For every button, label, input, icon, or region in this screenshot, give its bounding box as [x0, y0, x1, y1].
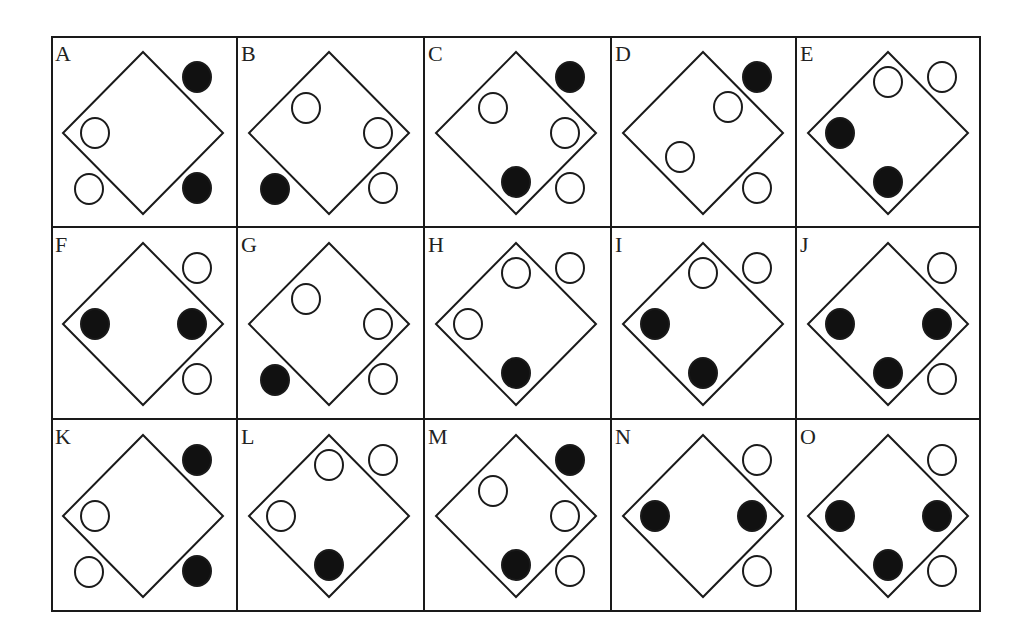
hollow-circle-icon	[75, 174, 103, 204]
hollow-circle-icon	[364, 309, 392, 339]
cell-label: I	[615, 232, 622, 257]
cell-label: J	[800, 232, 809, 257]
filled-circle-icon	[81, 309, 109, 339]
filled-circle-icon	[826, 309, 854, 339]
filled-circle-icon	[874, 167, 902, 197]
hollow-circle-icon	[183, 364, 211, 394]
option-cell-a[interactable]: A	[51, 36, 237, 227]
cell-label: M	[428, 424, 448, 449]
option-cell-f[interactable]: F	[51, 227, 237, 419]
cell-label: G	[241, 232, 257, 257]
cell-border	[611, 419, 796, 612]
hollow-circle-icon	[928, 62, 956, 92]
filled-circle-icon	[502, 358, 530, 388]
cell-label: C	[428, 41, 443, 66]
cell-label: O	[800, 424, 816, 449]
puzzle-svg: ABCDEFGHIJKLMNO	[51, 36, 981, 612]
hollow-circle-icon	[928, 364, 956, 394]
cell-label: N	[615, 424, 631, 449]
filled-circle-icon	[923, 501, 951, 531]
option-cell-j[interactable]: J	[796, 227, 981, 419]
cell-label: L	[241, 424, 254, 449]
option-cell-h[interactable]: H	[424, 227, 611, 419]
cell-label: F	[55, 232, 67, 257]
cell-border	[424, 227, 611, 419]
cell-border	[796, 227, 981, 419]
option-cell-g[interactable]: G	[237, 227, 424, 419]
filled-circle-icon	[641, 501, 669, 531]
option-cell-i[interactable]: I	[611, 227, 796, 419]
cell-border	[51, 227, 237, 419]
option-cell-d[interactable]: D	[611, 36, 796, 227]
cell-label: B	[241, 41, 256, 66]
option-cell-n[interactable]: N	[611, 419, 796, 612]
filled-circle-icon	[923, 309, 951, 339]
hollow-circle-icon	[75, 557, 103, 587]
option-cell-o[interactable]: O	[796, 419, 981, 612]
hollow-circle-icon	[743, 556, 771, 586]
cell-label: E	[800, 41, 813, 66]
option-cell-e[interactable]: E	[796, 36, 981, 227]
cell-label: H	[428, 232, 444, 257]
hollow-circle-icon	[315, 450, 343, 480]
filled-circle-icon	[689, 358, 717, 388]
cell-border	[424, 36, 611, 227]
filled-circle-icon	[874, 358, 902, 388]
filled-circle-icon	[178, 309, 206, 339]
cell-label: A	[55, 41, 71, 66]
hollow-circle-icon	[743, 253, 771, 283]
hollow-circle-icon	[183, 253, 211, 283]
hollow-circle-icon	[928, 253, 956, 283]
option-cell-l[interactable]: L	[237, 419, 424, 612]
filled-circle-icon	[826, 501, 854, 531]
option-cell-b[interactable]: B	[237, 36, 424, 227]
cell-border	[237, 419, 424, 612]
hollow-circle-icon	[267, 501, 295, 531]
cell-label: D	[615, 41, 631, 66]
filled-circle-icon	[502, 167, 530, 197]
hollow-circle-icon	[689, 258, 717, 288]
hollow-circle-icon	[292, 284, 320, 314]
hollow-circle-icon	[714, 92, 742, 122]
hollow-circle-icon	[928, 445, 956, 475]
filled-circle-icon	[261, 174, 289, 204]
hollow-circle-icon	[556, 253, 584, 283]
hollow-circle-icon	[479, 476, 507, 506]
cell-border	[796, 36, 981, 227]
filled-circle-icon	[183, 173, 211, 203]
filled-circle-icon	[743, 62, 771, 92]
cell-border	[611, 227, 796, 419]
option-cell-m[interactable]: M	[424, 419, 611, 612]
hollow-circle-icon	[369, 173, 397, 203]
filled-circle-icon	[556, 445, 584, 475]
filled-circle-icon	[183, 62, 211, 92]
hollow-circle-icon	[369, 445, 397, 475]
hollow-circle-icon	[551, 118, 579, 148]
hollow-circle-icon	[364, 118, 392, 148]
option-cell-c[interactable]: C	[424, 36, 611, 227]
filled-circle-icon	[502, 550, 530, 580]
hollow-circle-icon	[928, 556, 956, 586]
filled-circle-icon	[826, 118, 854, 148]
hollow-circle-icon	[454, 309, 482, 339]
hollow-circle-icon	[369, 364, 397, 394]
hollow-circle-icon	[479, 93, 507, 123]
cell-label: K	[55, 424, 71, 449]
hollow-circle-icon	[743, 173, 771, 203]
cell-border	[796, 419, 981, 612]
filled-circle-icon	[738, 501, 766, 531]
filled-circle-icon	[641, 309, 669, 339]
hollow-circle-icon	[81, 118, 109, 148]
filled-circle-icon	[261, 365, 289, 395]
hollow-circle-icon	[551, 501, 579, 531]
filled-circle-icon	[183, 556, 211, 586]
hollow-circle-icon	[556, 173, 584, 203]
hollow-circle-icon	[556, 556, 584, 586]
hollow-circle-icon	[292, 93, 320, 123]
hollow-circle-icon	[666, 142, 694, 172]
filled-circle-icon	[183, 445, 211, 475]
puzzle-grid: ABCDEFGHIJKLMNO	[51, 36, 981, 612]
cell-border	[424, 419, 611, 612]
hollow-circle-icon	[743, 445, 771, 475]
option-cell-k[interactable]: K	[51, 419, 237, 612]
